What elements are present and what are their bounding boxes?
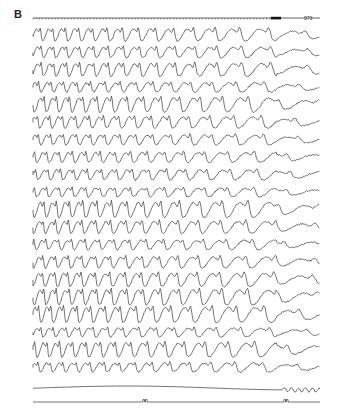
slow-wave-trace xyxy=(33,386,320,392)
time-marker-bar xyxy=(33,17,320,20)
cropped-caption xyxy=(20,409,330,415)
eeg-recording-figure: 973 xyxy=(0,0,340,415)
eeg-channel-traces xyxy=(33,27,319,372)
stimulus-marker-trace xyxy=(33,400,320,403)
timebar-label: 973 xyxy=(304,15,313,21)
